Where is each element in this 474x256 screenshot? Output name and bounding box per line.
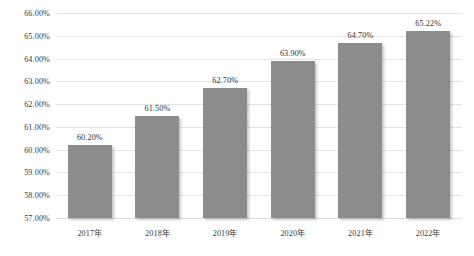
x-axis-tick-label: 2020年 [280,226,305,238]
y-axis-tick-label: 66.00% [24,9,50,18]
y-axis-tick-label: 64.00% [24,54,50,63]
y-axis-tick-label: 65.00% [24,31,50,40]
y-axis: 66.00%65.00%64.00%63.00%62.00%61.00%60.0… [0,0,50,256]
y-axis-tick-label: 58.00% [24,191,50,200]
y-axis-tick-label: 57.00% [24,214,50,223]
bar-value-label: 61.50% [145,104,171,113]
bar[interactable] [406,31,450,218]
bar[interactable] [338,43,382,218]
y-axis-tick-label: 61.00% [24,122,50,131]
bar-value-label: 62.70% [212,76,238,85]
gridline [56,218,462,219]
x-axis-tick-label: 2019年 [213,226,238,238]
x-axis: 2017年2018年2019年2020年2021年2022年 [56,220,462,250]
bar-slot: 61.50% [124,13,192,218]
bar-value-label: 63.90% [280,49,306,58]
bar[interactable] [68,145,112,218]
bar-slot: 62.70% [191,13,259,218]
bar-value-label: 65.22% [415,19,441,28]
bar-chart: 66.00%65.00%64.00%63.00%62.00%61.00%60.0… [0,0,474,256]
bar-value-label: 64.70% [348,31,374,40]
bar-value-label: 60.20% [77,133,103,142]
y-axis-tick-label: 63.00% [24,77,50,86]
plot-area: 60.20%61.50%62.70%63.90%64.70%65.22% [56,13,462,218]
x-axis-tick-label: 2017年 [77,226,102,238]
bar-slot: 65.22% [394,13,462,218]
bar-slot: 60.20% [56,13,124,218]
y-axis-tick-label: 60.00% [24,145,50,154]
bar[interactable] [271,61,315,218]
y-axis-tick-label: 59.00% [24,168,50,177]
bar-slot: 64.70% [327,13,395,218]
y-axis-tick-label: 62.00% [24,100,50,109]
bar-series: 60.20%61.50%62.70%63.90%64.70%65.22% [56,13,462,218]
bar-slot: 63.90% [259,13,327,218]
bar[interactable] [135,116,179,219]
x-axis-tick-label: 2022年 [416,226,441,238]
x-axis-tick-label: 2018年 [145,226,170,238]
x-axis-tick-label: 2021年 [348,226,373,238]
bar[interactable] [203,88,247,218]
